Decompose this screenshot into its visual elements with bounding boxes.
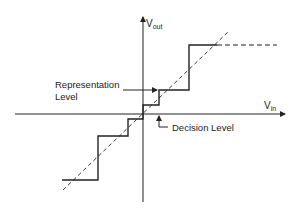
ideal-linear-dashed-line — [63, 32, 228, 190]
decision-level-label: Decision Level — [172, 122, 234, 133]
representation-level-label: Representation Level — [55, 79, 122, 102]
x-axis-label: Vin — [264, 100, 276, 112]
decision-level-leader — [159, 116, 168, 127]
quantizer-diagram: Vout Vin Representation Level Decision L… — [0, 0, 303, 209]
y-axis-label: Vout — [146, 18, 162, 30]
quantizer-staircase — [62, 45, 217, 180]
